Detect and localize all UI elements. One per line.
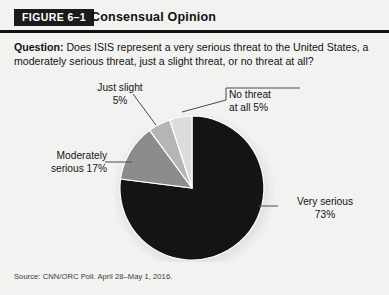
figure-title: Consensual Opinion bbox=[91, 10, 216, 25]
question-text: Question: Does ISIS represent a very ser… bbox=[14, 40, 378, 68]
leader-line-no-threat-diagonal bbox=[182, 100, 226, 112]
figure-header: FIGURE 6–1 Consensual Opinion bbox=[0, 8, 389, 32]
header-divider bbox=[0, 30, 389, 33]
figure-number-badge: FIGURE 6–1 bbox=[14, 9, 94, 26]
source-note: Source: CNN/ORC Poll. April 28–May 1, 20… bbox=[14, 272, 172, 281]
question-label: Question: bbox=[14, 41, 63, 53]
question-body: Does ISIS represent a very serious threa… bbox=[14, 41, 368, 67]
pie-label-moderately-serious: Moderately serious 17% bbox=[22, 150, 107, 175]
pie-label-very-serious: Very serious 73% bbox=[280, 196, 370, 221]
pie-chart: Just slight 5% No threat at all 5% Moder… bbox=[0, 72, 389, 262]
pie-label-no-threat: No threat at all 5% bbox=[229, 89, 309, 114]
pie-label-just-slight: Just slight 5% bbox=[85, 82, 155, 107]
